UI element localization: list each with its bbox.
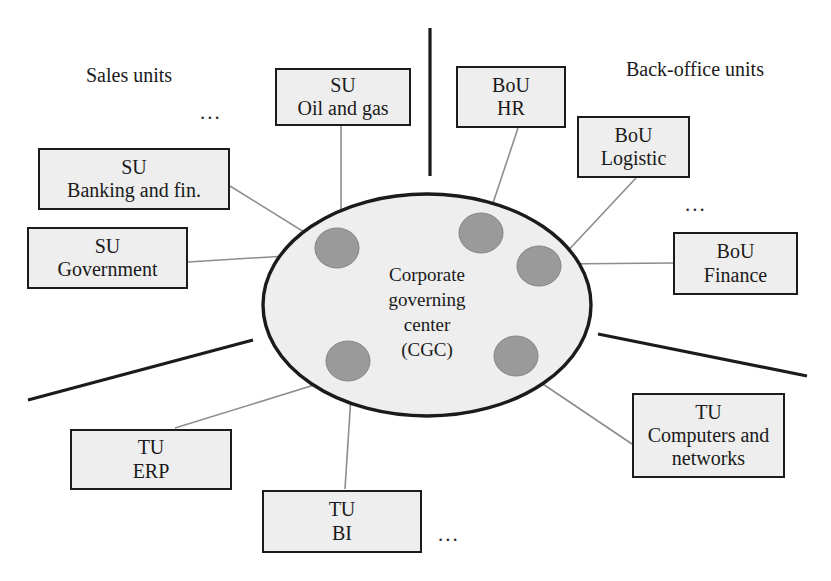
bou-hr-line-1: BoU [492,74,530,97]
back-office-units-ellipsis: ... [685,192,707,217]
tu-erp-line-2: ERP [133,460,170,483]
su-banking-and-fin-line-2: Banking and fin. [67,179,201,202]
tu-computers-line-3: networks [672,447,745,470]
bou-hr-line-2: HR [497,97,525,120]
tu-erp-line-1: TU [138,436,165,459]
bou-logistic-line-2: Logistic [601,147,667,170]
tu-computers-line-1: TU [695,401,722,424]
su-banking-and-fin-line-1: SU [121,156,147,179]
divider-bottom-right [598,334,807,376]
bou-finance-line-2: Finance [704,264,767,287]
diagram-canvas: Corporate governing center (CGC) Sales u… [0,0,831,581]
unit-box-tu-computers-and-networks[interactable]: TU Computers and networks [632,393,785,478]
su-government-line-2: Government [58,258,158,281]
node-backoffice-right [517,246,561,286]
unit-box-su-government[interactable]: SU Government [27,227,188,289]
tu-bi-line-1: TU [329,498,356,521]
group-label-sales-units: Sales units [86,64,172,87]
unit-box-tu-erp[interactable]: TU ERP [70,429,232,490]
corporate-governing-center-ellipse [263,194,591,416]
tu-bi-line-2: BI [332,522,352,545]
unit-box-su-oil-and-gas[interactable]: SU Oil and gas [275,68,411,126]
bou-finance-line-1: BoU [717,240,755,263]
tu-computers-line-2: Computers and [648,424,770,447]
sales-units-ellipsis: ... [200,100,222,125]
unit-box-bou-hr[interactable]: BoU HR [456,66,566,128]
su-government-line-1: SU [95,235,121,258]
node-backoffice-top [459,213,503,253]
su-oil-and-gas-line-2: Oil and gas [297,97,388,120]
divider-bottom-left [28,340,253,400]
unit-box-bou-finance[interactable]: BoU Finance [673,232,798,295]
unit-box-tu-bi[interactable]: TU BI [262,490,422,553]
group-label-back-office-units: Back-office units [626,58,764,81]
node-tech-bottom-left [326,341,370,381]
unit-box-su-banking-and-fin[interactable]: SU Banking and fin. [38,148,230,210]
node-sales-left [315,228,359,268]
su-oil-and-gas-line-1: SU [330,74,356,97]
bou-logistic-line-1: BoU [615,124,653,147]
unit-box-bou-logistic[interactable]: BoU Logistic [577,116,690,178]
node-tech-bottom-right [494,336,538,376]
technology-units-ellipsis: ... [438,522,460,547]
